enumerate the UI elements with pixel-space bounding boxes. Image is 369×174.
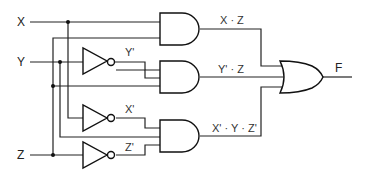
logic-circuit-diagram: X Y Z Y' X' Z' X · Z Y' · Z X' · Y · Z' … [0, 0, 369, 174]
x-not-label: X' [125, 103, 134, 115]
input-z-label: Z [17, 149, 24, 161]
term-xz-label: X · Z [220, 14, 244, 26]
input-y-label: Y [17, 56, 25, 68]
term-xnot-y-znot-label: X' · Y · Z' [212, 122, 257, 134]
y-not-label: Y' [125, 46, 134, 58]
z-not-label: Z' [125, 141, 134, 153]
inverter-x [83, 105, 107, 131]
circuit-wires-and-gates [0, 0, 369, 174]
inverter-z [83, 142, 107, 168]
and-gate-1 [160, 13, 199, 45]
and-gate-2 [160, 61, 199, 93]
term-ynot-z-label: Y' · Z [218, 63, 244, 75]
or-gate [280, 61, 323, 93]
and-gate-3 [160, 120, 199, 152]
input-x-label: X [17, 16, 25, 28]
inverter-y [83, 48, 107, 74]
output-f-label: F [335, 62, 342, 74]
